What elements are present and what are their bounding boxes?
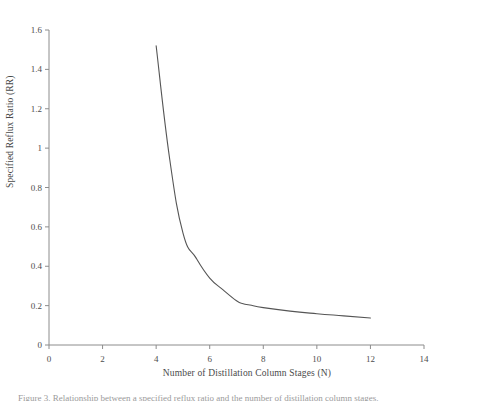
axes bbox=[45, 30, 424, 349]
data-series-group bbox=[156, 46, 370, 318]
x-axis-tick-label: 8 bbox=[261, 354, 266, 364]
chart-canvas bbox=[0, 0, 494, 401]
y-axis-tick-label: 0.4 bbox=[8, 261, 42, 271]
y-axis-tick-label: 0.6 bbox=[8, 222, 42, 232]
y-axis-tick-label: 1.4 bbox=[8, 64, 42, 74]
x-axis-tick-label: 10 bbox=[312, 354, 321, 364]
data-line-specified-reflux-ratio bbox=[156, 46, 370, 318]
y-axis-tick-label: 0 bbox=[8, 340, 42, 350]
figure-caption: Figure 3. Relationship between a specifi… bbox=[18, 393, 488, 401]
x-axis-tick-label: 0 bbox=[47, 354, 52, 364]
x-axis-ticks bbox=[49, 345, 424, 349]
y-axis-ticks bbox=[45, 30, 49, 345]
chart-figure: 00.20.40.60.811.21.41.6 02468101214 Spec… bbox=[0, 0, 494, 401]
x-axis-tick-label: 2 bbox=[100, 354, 105, 364]
y-axis-title: Specified Reflux Ratio (RR) bbox=[5, 76, 15, 189]
y-axis-tick-label: 0.2 bbox=[8, 301, 42, 311]
x-axis-tick-label: 6 bbox=[207, 354, 212, 364]
x-axis-tick-label: 14 bbox=[420, 354, 429, 364]
x-axis-title: Number of Distillation Column Stages (N) bbox=[0, 368, 494, 378]
y-axis-tick-label: 1.6 bbox=[8, 25, 42, 35]
x-axis-tick-label: 4 bbox=[154, 354, 159, 364]
x-axis-tick-label: 12 bbox=[366, 354, 375, 364]
